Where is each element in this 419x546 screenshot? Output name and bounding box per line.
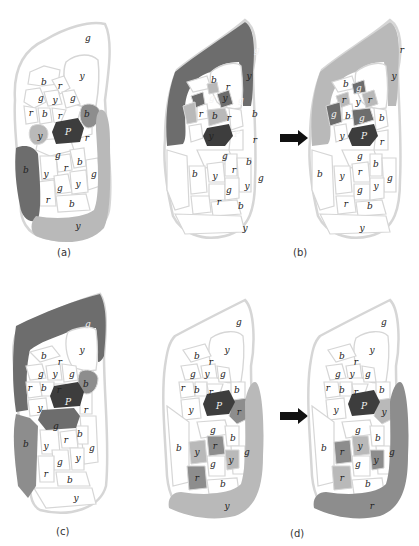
svg-text:y: y: [372, 455, 379, 465]
svg-text:b: b: [375, 433, 381, 443]
svg-text:b: b: [220, 479, 226, 489]
svg-text:g: g: [57, 183, 63, 193]
svg-text:r: r: [340, 447, 345, 457]
svg-text:y: y: [380, 407, 387, 417]
svg-text:y: y: [207, 131, 214, 141]
svg-text:g: g: [89, 443, 95, 453]
svg-text:b: b: [379, 113, 385, 123]
svg-text:P: P: [360, 131, 368, 141]
svg-text:y: y: [338, 131, 345, 141]
svg-text:g: g: [53, 421, 59, 431]
svg-text:r: r: [227, 113, 232, 123]
svg-text:y: y: [223, 501, 230, 511]
svg-text:y: y: [187, 405, 194, 415]
svg-text:P: P: [360, 401, 368, 411]
caption-c: (c): [56, 526, 69, 537]
svg-text:g: g: [57, 457, 63, 467]
svg-text:b: b: [84, 109, 90, 119]
svg-text:y: y: [356, 441, 363, 451]
svg-text:y: y: [332, 405, 339, 415]
svg-text:y: y: [390, 71, 397, 81]
svg-text:r: r: [195, 473, 200, 483]
svg-text:b: b: [252, 109, 258, 119]
panel-b-after: r y b g r y r g b g b y P r g b y r b g …: [290, 10, 419, 245]
svg-text:y: y: [74, 453, 81, 463]
svg-text:r: r: [209, 357, 214, 367]
panel-b-before: g y b r g y g r b r b y P r g b y r b g …: [145, 10, 275, 245]
svg-text:y: y: [243, 181, 250, 191]
svg-text:y: y: [72, 493, 79, 503]
svg-text:g: g: [85, 319, 91, 329]
svg-text:r: r: [209, 387, 214, 397]
svg-text:y: y: [74, 221, 81, 231]
svg-text:g: g: [335, 369, 341, 379]
svg-text:r: r: [326, 383, 331, 393]
svg-text:g: g: [356, 83, 362, 93]
svg-text:g: g: [254, 45, 260, 55]
svg-text:b: b: [77, 429, 83, 439]
svg-text:y: y: [348, 369, 355, 379]
svg-text:r: r: [181, 383, 186, 393]
svg-text:r: r: [253, 135, 258, 145]
svg-text:r: r: [58, 81, 63, 91]
svg-text:g: g: [91, 169, 97, 179]
cell-diagram-b-after: r y b g r y r g b g b y P r g b y r b g …: [290, 10, 419, 245]
svg-text:y: y: [368, 345, 375, 355]
svg-text:g: g: [220, 369, 226, 379]
panel-d-before: g y b r g y g r b r b y P r g b y r b g …: [145, 286, 275, 521]
svg-text:b: b: [373, 159, 379, 169]
svg-text:g: g: [210, 425, 216, 435]
svg-text:b: b: [194, 351, 200, 361]
svg-text:b: b: [367, 201, 373, 211]
svg-text:r: r: [58, 111, 63, 121]
panel-d-after: g y b r g y g r b r b y P y g b r y b g …: [290, 286, 419, 521]
svg-text:y: y: [211, 171, 218, 181]
svg-text:r: r: [354, 387, 359, 397]
svg-text:b: b: [246, 157, 252, 167]
svg-text:y: y: [354, 97, 361, 107]
svg-text:b: b: [194, 385, 200, 395]
svg-text:r: r: [64, 163, 69, 173]
caption-b: (b): [293, 247, 307, 258]
svg-text:r: r: [354, 357, 359, 367]
svg-text:g: g: [209, 93, 215, 103]
svg-text:P: P: [215, 401, 223, 411]
svg-text:b: b: [365, 479, 371, 489]
svg-text:b: b: [343, 79, 349, 89]
svg-text:r: r: [340, 473, 345, 483]
svg-text:y: y: [203, 369, 210, 379]
svg-text:y: y: [223, 345, 230, 355]
svg-text:g: g: [359, 113, 365, 123]
svg-text:y: y: [358, 223, 365, 233]
svg-text:y: y: [42, 441, 49, 451]
svg-text:g: g: [210, 459, 216, 469]
svg-text:g: g: [85, 33, 91, 43]
svg-text:y: y: [36, 131, 43, 141]
svg-text:b: b: [176, 443, 182, 453]
svg-text:P: P: [64, 397, 72, 407]
svg-text:r: r: [57, 385, 62, 395]
svg-text:y: y: [193, 447, 200, 457]
svg-text:b: b: [23, 165, 29, 175]
svg-text:r: r: [232, 165, 237, 175]
panel-c: g y b r g y g r b r b y P r g b y r b g …: [0, 286, 140, 521]
svg-text:r: r: [44, 469, 49, 479]
cell-diagram-c: g y b r g y g r b r b y P r g b y r b g …: [0, 286, 140, 521]
svg-text:g: g: [38, 93, 44, 103]
svg-text:b: b: [67, 475, 73, 485]
svg-text:g: g: [38, 369, 44, 379]
svg-text:b: b: [192, 169, 198, 179]
svg-text:r: r: [84, 405, 89, 415]
svg-text:b: b: [234, 385, 240, 395]
svg-text:y: y: [42, 169, 49, 179]
svg-text:b: b: [211, 75, 217, 85]
svg-text:b: b: [379, 385, 385, 395]
svg-text:g: g: [331, 109, 337, 119]
svg-text:g: g: [389, 447, 395, 457]
svg-text:b: b: [77, 157, 83, 167]
svg-text:y: y: [78, 71, 85, 81]
svg-text:g: g: [226, 185, 232, 195]
svg-text:g: g: [258, 173, 264, 183]
svg-text:r: r: [28, 383, 33, 393]
svg-text:g: g: [222, 151, 228, 161]
